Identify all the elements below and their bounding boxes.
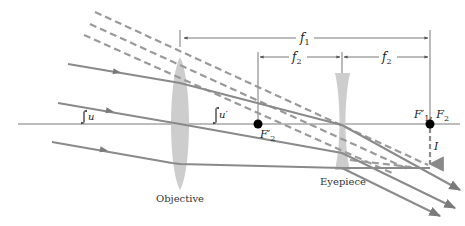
focal-point-f2-prime-label: F′2 — [259, 128, 275, 143]
image-label: I — [433, 140, 439, 153]
f2-right-label: f2 — [381, 50, 392, 66]
angle-u-label: u — [88, 111, 94, 122]
telescope-ray-diagram: f1 f2 f2 I — [0, 0, 465, 226]
dashed-construction-rays — [84, 12, 428, 173]
angle-u-prime-label: u′ — [219, 109, 228, 120]
objective-caption: Objective — [156, 193, 204, 204]
eyepiece-caption: Eyepiece — [320, 176, 366, 187]
f1-label: f1 — [299, 31, 310, 47]
focal-points-combined-label: F′1, F2 — [413, 108, 449, 123]
f2-left-label: f2 — [291, 50, 302, 66]
